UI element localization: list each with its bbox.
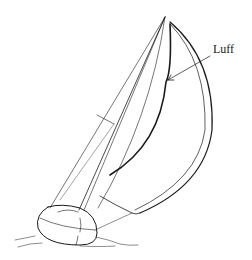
mast-line-2 — [84, 17, 165, 210]
jib-leech — [98, 17, 165, 208]
cockpit — [58, 210, 78, 212]
sailboat-illustration — [0, 0, 252, 260]
luff-pointer-line — [168, 56, 210, 80]
water-wave-2 — [18, 243, 42, 247]
mast-line — [79, 17, 165, 210]
spinnaker-luff — [110, 24, 171, 175]
hull-keel-line — [76, 236, 78, 245]
water-wave-1 — [15, 236, 35, 240]
luff-label: Luff — [213, 42, 234, 57]
forestay-line — [50, 17, 165, 208]
spinnaker-foot — [100, 196, 140, 214]
sheet-line — [95, 213, 132, 230]
shroud-line — [60, 124, 114, 200]
water-wave-3 — [96, 237, 138, 245]
hull — [37, 205, 97, 245]
water-wave-4 — [80, 246, 115, 247]
hull-detail — [80, 218, 81, 232]
hull-deck-line — [40, 218, 95, 230]
